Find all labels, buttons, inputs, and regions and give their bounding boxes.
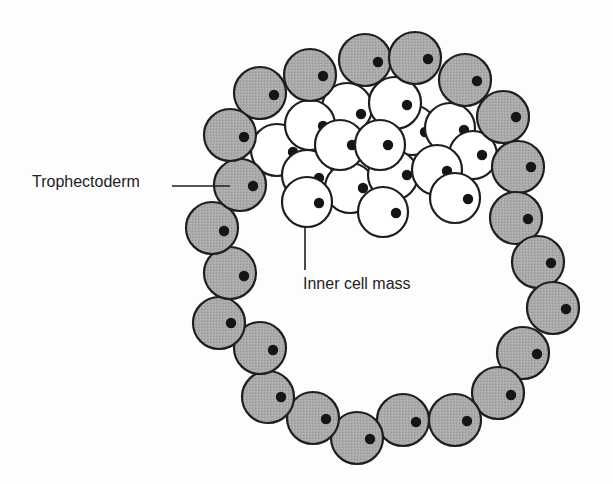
nucleus-icon (318, 71, 328, 81)
trophectoderm-cell (377, 394, 429, 446)
trophectoderm-cell (512, 236, 564, 288)
nucleus-icon (383, 140, 393, 150)
trophectoderm-cell-membrane (339, 34, 391, 86)
trophectoderm-cell (492, 141, 544, 193)
nucleus-icon (219, 226, 229, 236)
nucleus-icon (462, 416, 472, 426)
inner-cell (430, 173, 480, 223)
trophectoderm-cell-membrane (429, 394, 481, 446)
trophectoderm-cell (477, 91, 529, 143)
nucleus-icon (391, 208, 401, 218)
nucleus-icon (276, 392, 286, 402)
trophectoderm-cell (339, 34, 391, 86)
nucleus-icon (268, 345, 278, 355)
nucleus-icon (477, 150, 487, 160)
blastocyst-diagram: Trophectoderm Inner cell mass (0, 0, 613, 484)
trophectoderm-cell-membrane (242, 371, 294, 423)
nucleus-icon (373, 57, 383, 67)
nucleus-icon (402, 170, 412, 180)
blastocyst-illustration (0, 0, 613, 484)
nucleus-icon (314, 198, 324, 208)
trophectoderm-cell (284, 49, 336, 101)
inner-cell-mass-label: Inner cell mass (303, 276, 411, 292)
trophectoderm-cell (429, 394, 481, 446)
trophectoderm-cell (204, 109, 256, 161)
nucleus-icon (356, 109, 366, 119)
nucleus-icon (532, 349, 542, 359)
nucleus-icon (239, 271, 249, 281)
nucleus-icon (365, 434, 375, 444)
nucleus-icon (511, 112, 521, 122)
nucleus-icon (472, 76, 482, 86)
trophectoderm-cell-membrane (492, 141, 544, 193)
trophectoderm-cell-membrane (389, 32, 441, 84)
trophectoderm-cell-membrane (377, 394, 429, 446)
inner-cell (355, 120, 405, 170)
inner-cell (358, 187, 408, 237)
nucleus-icon (526, 162, 536, 172)
trophectoderm-cell (242, 371, 294, 423)
nucleus-icon (321, 414, 331, 424)
trophectoderm-cell-membrane (284, 49, 336, 101)
trophectoderm-cell (439, 54, 491, 106)
nucleus-icon (411, 417, 421, 427)
nucleus-icon (463, 194, 473, 204)
nucleus-icon (239, 132, 249, 142)
trophectoderm-cell-membrane (512, 236, 564, 288)
nucleus-icon (226, 318, 236, 328)
nucleus-icon (423, 54, 433, 64)
nucleus-icon (248, 181, 258, 191)
nucleus-icon (561, 304, 571, 314)
inner-cell-membrane (282, 177, 332, 227)
inner-cell (282, 177, 332, 227)
nucleus-icon (358, 183, 368, 193)
nucleus-icon (402, 100, 412, 110)
trophectoderm-cell (214, 159, 266, 211)
nucleus-icon (506, 390, 516, 400)
trophectoderm-cell (527, 282, 579, 334)
trophectoderm-cell-membrane (193, 297, 245, 349)
inner-cell-membrane (355, 120, 405, 170)
trophectoderm-cell (389, 32, 441, 84)
trophectoderm-cell-membrane (439, 54, 491, 106)
trophectoderm-label: Trophectoderm (32, 174, 140, 190)
trophectoderm-cell-membrane (214, 159, 266, 211)
trophectoderm-cell-membrane (477, 91, 529, 143)
nucleus-icon (546, 258, 556, 268)
nucleus-icon (269, 90, 279, 100)
trophectoderm-cell (193, 297, 245, 349)
trophectoderm-cell-membrane (527, 282, 579, 334)
nucleus-icon (523, 214, 533, 224)
